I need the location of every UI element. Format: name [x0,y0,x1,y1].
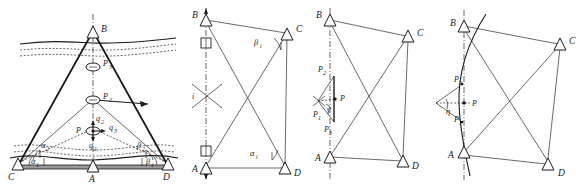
label-station-a: A [191,164,198,174]
label-target-p2-sub: 2 [109,97,112,103]
edge-a-d [330,157,402,161]
label-point-p2-sub: 2 [323,70,326,76]
edge-c-d [548,48,560,158]
label-point-p: P [471,99,477,108]
label-station-b: B [450,18,456,28]
edge-c-d [285,36,287,165]
station-marker-c[interactable] [554,38,566,50]
station-marker-b[interactable] [324,14,336,26]
label-target-p2: P [102,92,108,101]
label-angle-alpha-i: α [250,148,255,158]
panel-curved-trajectory-network: B C A D P 2 P P 1 η [434,0,576,186]
edge-a-c [464,47,558,152]
label-point-p3-sub: 3 [328,130,332,136]
label-station-d: D [557,168,565,178]
label-station-a: A [88,174,95,184]
edge-b-c [330,20,406,36]
station-marker-c[interactable] [402,30,414,42]
label-station-c: C [8,172,15,182]
edge-c-d [403,40,408,157]
label-point-p: P [339,94,345,103]
sightline-c-b [19,33,92,164]
panel-deformation-monitoring-section: B C A D P 3 P 2 P q 2 q 3 q 1 α 2 α 1 β … [0,0,186,186]
label-angle-eta: η [446,106,450,116]
label-target-p3-sub: 3 [108,64,112,70]
label-station-b: B [316,10,322,20]
station-marker-b[interactable] [200,14,212,26]
label-point-p1-sub: 1 [459,120,462,126]
label-station-c: C [569,36,576,46]
label-angle-alpha2-sub: 2 [46,146,49,152]
label-vector-q2-sub: 2 [101,119,104,125]
eta-leg-upper [436,86,460,103]
label-angle-beta1-sub: 1 [151,162,154,168]
label-point-p2-sub: 2 [459,80,462,86]
figure-canvas: B C A D P 3 P 2 P q 2 q 3 q 1 α 2 α 1 β … [0,0,576,186]
point-marker-p[interactable] [462,101,466,105]
label-station-c: C [296,24,303,34]
station-marker-c[interactable] [281,28,293,40]
label-target-p: P [75,126,81,135]
station-marker-b[interactable] [458,20,470,32]
station-marker-b[interactable] [87,26,99,38]
label-station-d: D [162,172,170,182]
label-station-d: D [411,161,419,171]
label-intersection-i: i [192,92,194,101]
label-angle-beta-i: β [253,37,259,47]
vector-q3-head [101,129,106,133]
label-vector-q3: q [109,123,113,132]
panel-displacement-vector-network: B C A D P 2 P 1 P 3 P γ [312,0,434,186]
label-vector-q2: q [96,114,100,123]
edge-b-d [206,22,285,166]
angle-arc-beta-i [274,38,281,50]
point-marker-p[interactable] [333,97,336,100]
label-angle-gamma: γ [327,104,331,114]
label-station-d: D [293,168,301,178]
label-station-a: A [314,153,321,163]
angle-arc-beta1 [154,157,157,165]
label-vector-q1-sub: 1 [94,146,97,152]
vector-q2-head [91,120,95,125]
edge-a-d [464,155,546,164]
label-station-b: B [192,10,198,20]
label-target-p3: P [102,59,108,68]
centerline-arrow-bottom [204,174,208,180]
label-vector-q1: q [89,141,93,150]
label-station-c: C [417,28,424,38]
label-station-a: A [447,150,454,160]
edge-b-c [464,26,558,44]
label-angle-alpha1-sub: 1 [36,162,39,168]
ray-c-p2 [20,100,92,163]
panel-intersection-angle-network: B C A D i β i α i [186,0,312,186]
water-strata-dashed-2 [20,50,176,56]
label-point-p1-sub: 1 [318,115,321,121]
arrow-head-p2 [140,101,148,107]
label-vector-q3-sub: 3 [113,128,117,134]
water-strata-dashed-1 [20,44,176,50]
label-angle-beta2-sub: 2 [142,146,145,152]
label-angle-beta-i-sub: i [260,43,262,49]
label-angle-alpha-i-sub: i [256,154,258,160]
edge-b-c [206,20,286,33]
edge-b-d [464,29,547,160]
label-station-b: B [101,24,107,34]
